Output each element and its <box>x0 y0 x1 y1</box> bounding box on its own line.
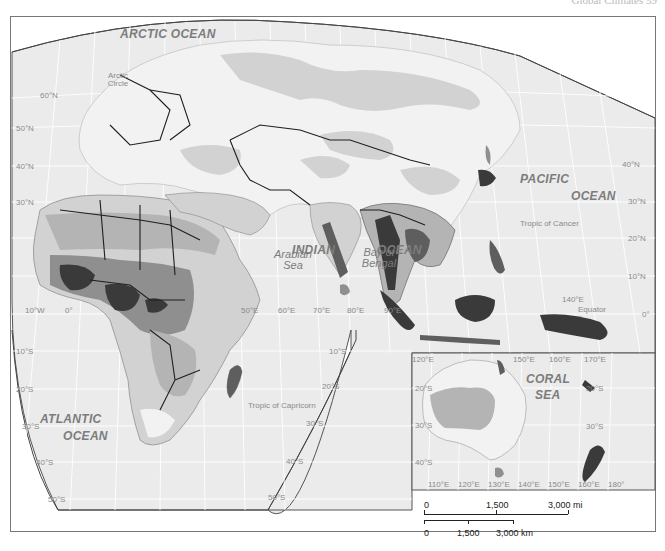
lat-tick: 10°S <box>16 348 33 356</box>
lon-tick: 110°E <box>428 481 449 489</box>
lon-tick: 170°E <box>584 356 606 364</box>
scale-km-3000: 3,000 km <box>496 528 533 538</box>
lat-tick: 40°S <box>415 459 432 467</box>
scale-km-1500: 1,500 <box>457 528 480 538</box>
lat-tick: 20°S <box>322 383 339 391</box>
equator-label: Equator <box>578 306 606 314</box>
lat-tick: 30°S <box>22 423 39 431</box>
lat-tick: 40°S <box>286 458 303 466</box>
lon-tick: 130°E <box>488 481 510 489</box>
running-head: Global Climates 59 <box>571 0 657 6</box>
lon-tick: 0° <box>65 307 73 315</box>
lat-tick: 20°S <box>415 385 432 393</box>
lat-tick: 60°N <box>40 92 58 100</box>
lon-tick: 180° <box>608 481 625 489</box>
pacific-ocean-label-2: OCEAN <box>571 190 616 202</box>
lon-tick: 60°E <box>278 307 295 315</box>
lon-tick: 150°E <box>513 356 535 364</box>
lon-tick: 150°E <box>548 481 570 489</box>
atlantic-ocean-label-2: OCEAN <box>63 430 108 442</box>
lat-tick: 40°N <box>622 161 640 169</box>
scale-mi-1500: 1,500 <box>486 500 509 510</box>
lat-tick: 30°N <box>16 199 34 207</box>
lat-tick: 20°N <box>628 235 646 243</box>
lon-tick: 140°E <box>562 296 584 304</box>
arctic-ocean-label: ARCTIC OCEAN <box>120 28 216 40</box>
lat-tick: 10°N <box>628 273 646 281</box>
scale-mi-0: 0 <box>424 500 429 510</box>
lat-tick: 0° <box>642 311 650 319</box>
lat-tick: 50°N <box>16 125 34 133</box>
lat-tick: 30°S <box>415 422 432 430</box>
arabian-sea-label: Arabian Sea <box>268 249 318 271</box>
lon-tick: 70°E <box>313 307 330 315</box>
coral-sea-label-2: SEA <box>535 389 561 401</box>
lon-tick: 140°E <box>518 481 540 489</box>
pacific-ocean-label: PACIFIC <box>520 173 569 185</box>
lat-tick: 40°N <box>16 163 34 171</box>
lon-tick: 80°E <box>347 307 364 315</box>
lat-tick: 10°S <box>329 348 346 356</box>
tropic-of-capricorn-label: Tropic of Capricorn <box>248 402 316 410</box>
lon-tick: 90°E <box>384 307 401 315</box>
lon-tick: 50°E <box>241 307 258 315</box>
lon-tick: 160°E <box>578 481 600 489</box>
bay-of-bengal-label: Bay of Bengal <box>354 247 404 269</box>
lat-tick: 20°S <box>16 386 33 394</box>
scale-km-0: 0 <box>424 528 429 538</box>
tropic-of-cancer-label: Tropic of Cancer <box>520 220 579 228</box>
lat-tick: 30°N <box>628 198 646 206</box>
lon-tick: 10°W <box>25 307 45 315</box>
lat-tick: 50°S <box>268 494 285 502</box>
atlantic-ocean-label: ATLANTIC <box>40 413 102 425</box>
coral-sea-label: CORAL <box>526 373 570 385</box>
lat-tick: 30°S <box>306 420 323 428</box>
lon-tick: 120°E <box>412 356 434 364</box>
scale-mi-3000: 3,000 mi <box>548 500 583 510</box>
lat-tick: 50°S <box>48 496 65 504</box>
scale-mi-bar <box>424 514 568 515</box>
lat-tick: 30°S <box>586 423 603 431</box>
lon-tick: 120°E <box>458 481 480 489</box>
lat-tick: 40°S <box>36 459 53 467</box>
scale-bar: 0 1,500 3,000 mi 0 1,500 3,000 km <box>424 498 644 548</box>
lat-tick: 20°S <box>586 385 603 393</box>
lon-tick: 160°E <box>549 356 571 364</box>
arctic-circle-label: Arctic Circle <box>98 72 138 88</box>
